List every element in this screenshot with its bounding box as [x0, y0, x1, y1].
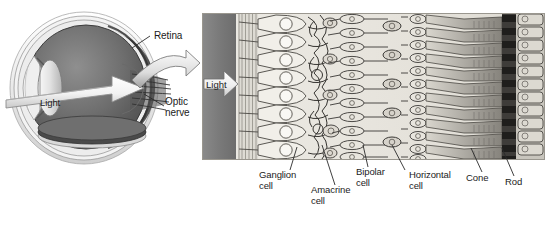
label-retina: Retina — [154, 30, 182, 41]
label-ganglion-cell-line1: Ganglion — [259, 170, 296, 181]
label-cone: Cone — [466, 173, 488, 184]
eye-base-cut — [38, 116, 146, 148]
light-label-retina: Light — [206, 79, 227, 90]
cornea-and-lens — [23, 56, 62, 120]
label-amacrine-cell-line1: Amacrine — [311, 185, 350, 196]
retina-layers-panel: Light — [202, 13, 545, 160]
eye-diagram: Light Retina Optic nerve — [4, 8, 200, 168]
pigment-epithelium — [502, 13, 545, 160]
label-optic-nerve-line2: nerve — [165, 107, 190, 118]
light-label-eye: Light — [40, 97, 61, 108]
label-bipolar-cell-line2: cell — [356, 178, 370, 189]
label-amacrine-cell-line2: cell — [311, 196, 325, 207]
label-optic-nerve-line1: Optic — [165, 96, 188, 107]
label-horizontal-cell-line2: cell — [409, 181, 423, 192]
label-rod: Rod — [505, 177, 522, 188]
retina-figure: Light Retina Optic nerve — [0, 0, 547, 229]
label-ganglion-cell-line2: cell — [259, 181, 273, 192]
label-bipolar-cell-line1: Bipolar — [356, 167, 385, 178]
label-horizontal-cell-line1: Horizontal — [409, 170, 451, 181]
photoreceptor-segments — [426, 15, 502, 159]
